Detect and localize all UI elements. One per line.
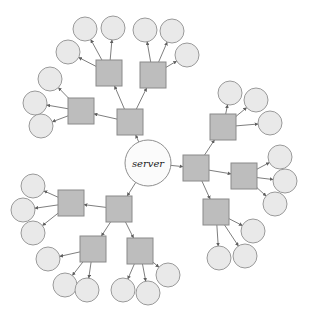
- router-node-s_r_hub[interactable]: [183, 155, 209, 181]
- edge-s_tl_c-c7: [58, 88, 68, 98]
- server-label: server: [132, 158, 165, 169]
- client-node-c8[interactable]: [23, 91, 47, 115]
- router-node-s_r_c[interactable]: [203, 199, 229, 225]
- edge-s_r_c-c16: [229, 219, 242, 226]
- edge-s_tl_b-c6: [166, 61, 177, 67]
- router-node-s_tl_c[interactable]: [68, 98, 94, 124]
- edge-s_r_c-c18: [217, 225, 218, 246]
- edge-s_tl_b-c5: [159, 42, 168, 62]
- edge-s_r_b-c13: [257, 163, 269, 170]
- edge-server-s_tl_hub: [136, 135, 139, 142]
- edge-server-s_bl_hub: [127, 182, 136, 196]
- edge-s_tl_a-c1: [91, 40, 102, 60]
- edge-s_bl_b-c24: [89, 262, 91, 278]
- client-node-c2[interactable]: [101, 16, 125, 40]
- edge-s_bl_hub-s_bl_c: [126, 222, 134, 238]
- client-node-c10[interactable]: [218, 81, 242, 105]
- client-node-c25[interactable]: [111, 278, 135, 302]
- client-node-c1[interactable]: [73, 17, 97, 41]
- client-node-c3[interactable]: [56, 40, 80, 64]
- network-diagram-canvas: server: [0, 0, 318, 327]
- client-node-c23[interactable]: [53, 273, 77, 297]
- router-node-s_tl_a[interactable]: [96, 60, 122, 86]
- label-layer: server: [132, 158, 165, 169]
- edge-s_bl_a-c19: [44, 191, 58, 197]
- edge-s_r_b-c14: [257, 178, 273, 180]
- client-node-c18[interactable]: [207, 246, 231, 270]
- client-node-c6[interactable]: [175, 43, 199, 67]
- client-node-c15[interactable]: [263, 192, 287, 216]
- edge-s_bl_hub-s_bl_a: [84, 205, 106, 208]
- edge-s_bl_b-c23: [72, 262, 83, 276]
- edge-s_tl_hub-s_tl_b: [136, 88, 146, 109]
- client-node-c17[interactable]: [233, 244, 257, 268]
- edge-s_r_a-c12: [236, 124, 258, 126]
- client-node-c13[interactable]: [268, 145, 292, 169]
- edge-s_bl_c-c26: [142, 264, 145, 281]
- client-node-c21[interactable]: [21, 221, 45, 245]
- edge-s_tl_hub-s_tl_c: [94, 114, 117, 119]
- edge-s_tl_a-c2: [110, 40, 112, 60]
- edge-s_r_a-c11: [236, 108, 247, 117]
- client-node-c27[interactable]: [156, 263, 180, 287]
- router-node-s_bl_b[interactable]: [80, 236, 106, 262]
- edge-s_r_hub-s_r_c: [202, 181, 210, 199]
- client-node-c20[interactable]: [11, 198, 35, 222]
- edge-s_tl_hub-s_tl_a: [115, 86, 125, 109]
- client-node-c26[interactable]: [136, 281, 160, 305]
- client-node-c14[interactable]: [273, 169, 297, 193]
- router-node-s_r_a[interactable]: [210, 114, 236, 140]
- edge-s_r_hub-s_r_b: [209, 170, 231, 174]
- edge-s_r_a-c10: [226, 105, 228, 114]
- edge-s_bl_a-c21: [42, 213, 58, 225]
- client-node-c24[interactable]: [75, 278, 99, 302]
- edge-s_bl_c-c25: [128, 264, 135, 279]
- router-node-s_bl_a[interactable]: [58, 190, 84, 216]
- edge-s_tl_c-c8: [47, 105, 68, 109]
- client-node-c22[interactable]: [36, 247, 60, 271]
- edge-s_r_hub-s_r_a: [205, 140, 215, 155]
- client-node-c16[interactable]: [241, 219, 265, 243]
- edge-s_tl_c-c9: [52, 116, 68, 122]
- client-node-c12[interactable]: [258, 111, 282, 135]
- edge-s_tl_b-c4: [147, 42, 151, 62]
- edge-s_tl_a-c3: [79, 57, 96, 66]
- client-node-c4[interactable]: [133, 18, 157, 42]
- edge-s_bl_c-c27: [153, 262, 159, 267]
- client-node-c19[interactable]: [21, 174, 45, 198]
- client-node-c9[interactable]: [29, 114, 53, 138]
- edge-s_r_c-c17: [225, 225, 239, 246]
- network-diagram: server: [0, 0, 318, 327]
- router-node-s_tl_hub[interactable]: [117, 109, 143, 135]
- edge-server-s_r_hub: [171, 165, 183, 166]
- edge-s_r_b-c15: [257, 188, 266, 196]
- client-node-c11[interactable]: [244, 88, 268, 112]
- router-node-s_tl_b[interactable]: [140, 62, 166, 88]
- router-node-s_bl_c[interactable]: [127, 238, 153, 264]
- edge-s_bl_hub-s_bl_b: [101, 222, 110, 236]
- router-node-s_r_b[interactable]: [231, 163, 257, 189]
- router-node-s_bl_hub[interactable]: [106, 196, 132, 222]
- client-node-c7[interactable]: [38, 67, 62, 91]
- edge-s_bl_a-c20: [35, 205, 58, 208]
- client-node-c5[interactable]: [160, 19, 184, 43]
- edge-s_bl_b-c22: [60, 252, 80, 257]
